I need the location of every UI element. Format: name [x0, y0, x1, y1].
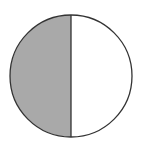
fraction-circle-diagram [0, 0, 143, 149]
unshaded-right-half [71, 15, 132, 137]
shaded-left-half [10, 15, 71, 137]
